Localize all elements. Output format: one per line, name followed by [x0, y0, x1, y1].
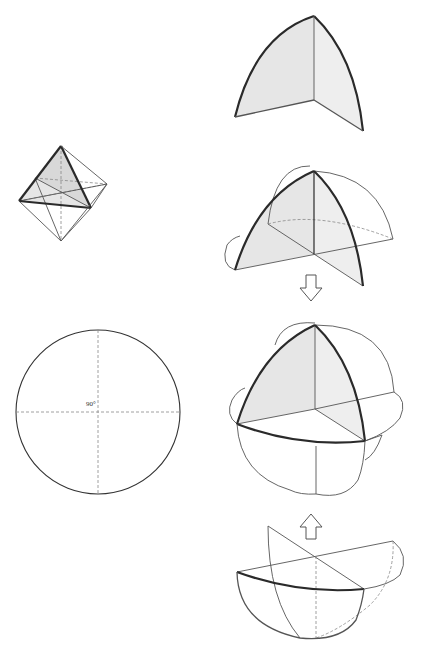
- octahedron-figure: [19, 146, 107, 241]
- lower-half-figure: [237, 526, 404, 640]
- spherical-triangle-figure: [235, 16, 363, 131]
- assembled-sphere-figure: [229, 323, 402, 496]
- angle-label: 90°: [86, 400, 96, 408]
- partial-sphere-figure: [225, 166, 393, 286]
- circle-figure: 90°: [16, 330, 180, 494]
- arrow-down-icon: [300, 275, 322, 301]
- arrow-up-icon: [300, 514, 322, 539]
- illustration-canvas: 90°: [0, 0, 422, 663]
